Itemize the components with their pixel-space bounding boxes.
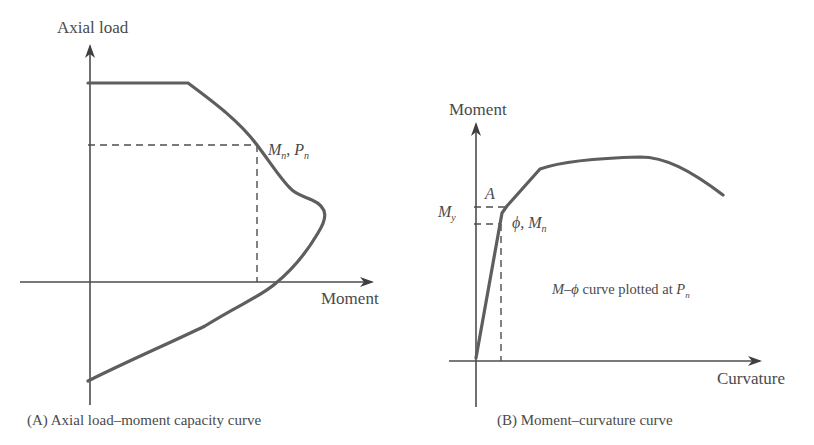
panel-b-caption: (B) Moment–curvature curve: [497, 412, 673, 429]
panel-b-x-axis-label: Curvature: [717, 369, 785, 388]
panel-b-mphi-curve: [476, 157, 723, 358]
figure-canvas: Axial load Moment Mn, Pn (A) Axial load–…: [0, 0, 814, 445]
panel-b-note: M–ϕ curve plotted at Pn: [551, 281, 690, 300]
panel-b-y-axis-label: Moment: [449, 100, 507, 119]
panel-b-point-a-label: A: [484, 185, 495, 202]
panel-b-my-label: My: [437, 203, 456, 223]
panel-a-point-label: Mn, Pn: [267, 141, 309, 161]
panel-b-moment-curvature: Moment Curvature A My ϕ, Mn M–ϕ curve pl…: [437, 100, 785, 429]
panel-a-interaction-diagram: Axial load Moment Mn, Pn (A) Axial load–…: [20, 18, 379, 429]
panel-b-phi-mn-label: ϕ, Mn: [512, 214, 547, 234]
panel-a-caption: (A) Axial load–moment capacity curve: [27, 412, 261, 429]
panel-a-x-axis-label: Moment: [321, 289, 379, 308]
panel-a-y-axis-label: Axial load: [57, 18, 129, 37]
panel-a-capacity-curve: [88, 83, 325, 381]
